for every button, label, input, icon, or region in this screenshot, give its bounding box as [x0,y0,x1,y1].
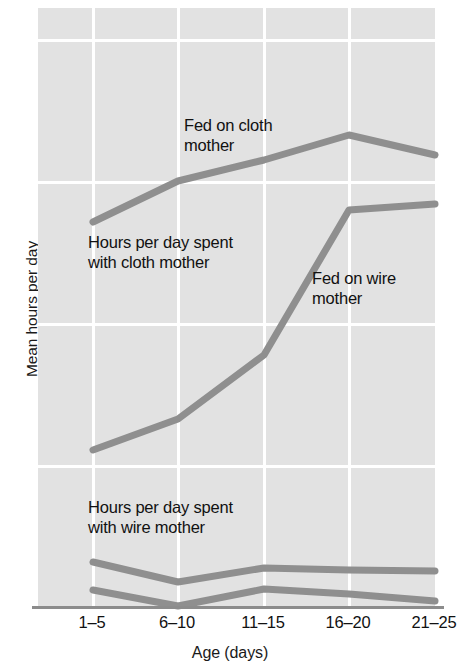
annotation-fed-on-cloth: Fed on cloth mother [184,115,272,156]
series-line-wire-mother-fed-wire [93,562,435,582]
x-tick-label-16-20: 16–20 [308,613,388,632]
x-axis-title: Age (days) [0,644,460,662]
x-tick-label-21-25: 21–25 [394,613,460,632]
x-tick-label-6-10: 6–10 [137,613,217,632]
annotation-wire-hours: Hours per day spent with wire mother [88,497,233,538]
harlow-monkey-attachment-line-chart: Mean hours per day 24 18 12 6 Fed on clo… [0,0,460,671]
annotation-cloth-hours: Hours per day spent with cloth mother [88,232,233,273]
x-tick-label-1-5: 1–5 [52,613,132,632]
x-tick-label-11-15: 11–15 [223,613,303,632]
x-axis-line [32,606,444,609]
annotation-fed-on-wire: Fed on wire mother [312,268,396,309]
series-line-wire-mother-fed-cloth [93,589,435,606]
